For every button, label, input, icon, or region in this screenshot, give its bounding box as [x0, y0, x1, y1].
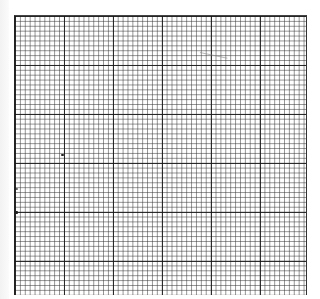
pencil-mark	[15, 211, 18, 214]
pencil-mark	[61, 154, 64, 156]
graph-paper-grid	[14, 15, 307, 295]
paper-left-margin	[0, 0, 9, 299]
pencil-mark	[15, 188, 18, 190]
